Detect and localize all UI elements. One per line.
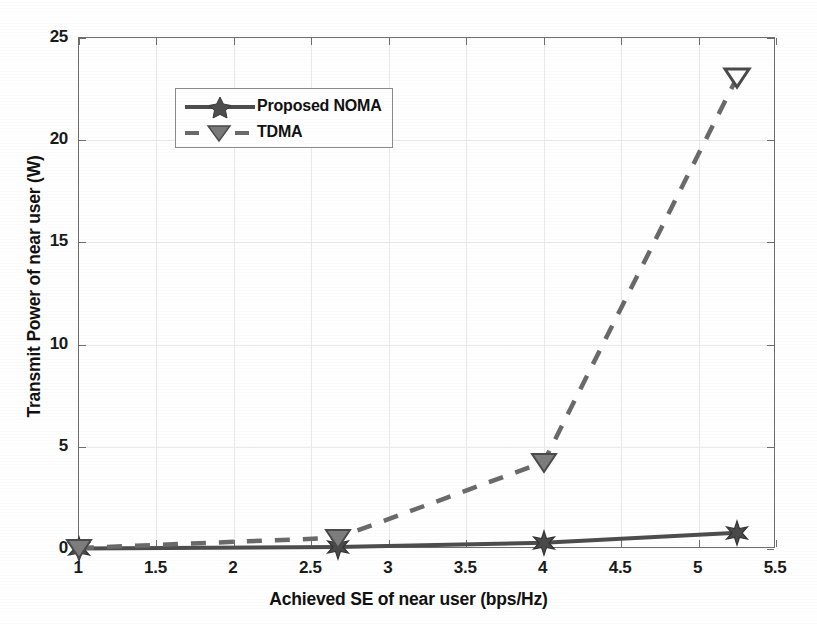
legend-entry-proposed-noma[interactable]: Proposed NOMA — [176, 93, 392, 119]
y-tick-label: 0 — [20, 538, 68, 558]
x-tick-label: 4 — [538, 558, 547, 578]
y-tick-mark — [767, 549, 774, 550]
y-axis-title: Transmit Power of near user (W) — [24, 57, 45, 517]
legend-swatch-solid-star-icon — [183, 94, 257, 118]
data-point-marker-proposed-noma — [722, 518, 752, 548]
data-point-marker-tdma — [529, 447, 559, 477]
triangle-down-icon — [326, 530, 350, 548]
plot-area: Proposed NOMA TDMA — [78, 37, 775, 548]
figure-canvas: 0510152025 Transmit Power of near user (… — [0, 0, 817, 624]
x-tick-mark — [776, 38, 777, 45]
x-tick-label: 1.5 — [144, 558, 167, 578]
star-icon — [727, 521, 748, 545]
x-tick-label: 2.5 — [299, 558, 322, 578]
legend-box[interactable]: Proposed NOMA TDMA — [175, 88, 393, 148]
data-point-marker-proposed-noma — [529, 528, 559, 558]
x-tick-label: 5.5 — [764, 558, 787, 578]
legend-entry-tdma[interactable]: TDMA — [176, 119, 392, 145]
y-tick-label: 25 — [20, 27, 68, 47]
triangle-down-icon — [725, 69, 749, 87]
data-point-marker-tdma — [722, 62, 752, 92]
triangle-down-icon — [67, 540, 91, 558]
x-tick-mark — [776, 540, 777, 547]
x-tick-label: 3 — [383, 558, 392, 578]
data-point-marker-tdma — [323, 523, 353, 553]
legend-label-tdma: TDMA — [257, 123, 302, 141]
x-tick-label: 5 — [693, 558, 702, 578]
legend-label-proposed-noma: Proposed NOMA — [257, 97, 382, 115]
x-tick-label: 3.5 — [454, 558, 477, 578]
x-tick-label: 4.5 — [609, 558, 632, 578]
triangle-down-icon — [532, 454, 556, 472]
x-axis-title: Achieved SE of near user (bps/Hz) — [0, 589, 817, 610]
x-tick-label: 2 — [228, 558, 237, 578]
star-icon — [533, 531, 554, 555]
legend-swatch-dashed-triangle-icon — [183, 120, 257, 144]
x-tick-label: 1 — [73, 558, 82, 578]
